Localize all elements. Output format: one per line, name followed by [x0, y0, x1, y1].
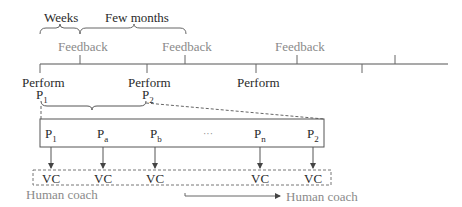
diagram-graphics [0, 0, 462, 207]
feedback-label: Feedback [275, 40, 325, 53]
weeks-label: Weeks [44, 11, 78, 24]
vc-label: VC [251, 172, 269, 185]
period-label-p2: P2 [142, 88, 154, 103]
box-item-pa: Pa [97, 127, 108, 142]
vc-dashed-box [33, 170, 331, 185]
box-item-pb: Pb [150, 127, 162, 142]
box-item-pn: Pn [254, 127, 266, 142]
feedback-label: Feedback [162, 40, 212, 53]
few-months-label: Few months [105, 11, 169, 24]
vc-label: VC [94, 172, 112, 185]
handoff-arrow [185, 193, 280, 196]
weeks-brace [40, 24, 80, 34]
few-months-brace [80, 24, 186, 34]
box-item-p1: P1 [45, 127, 57, 142]
period-label-p1: P1 [36, 88, 48, 103]
human-coach-label-right: Human coach [286, 190, 358, 203]
human-coach-label-left: Human coach [26, 188, 98, 201]
vc-label: VC [304, 172, 322, 185]
box-item-ellipsis: ··· [203, 127, 213, 140]
expanded-period-box [40, 119, 324, 147]
box-item-p2: P2 [307, 127, 319, 142]
vc-label: VC [42, 172, 60, 185]
period-brace [41, 101, 146, 110]
perform-label: Perform [237, 76, 280, 89]
feedback-label: Feedback [58, 40, 108, 53]
vc-label: VC [146, 172, 164, 185]
